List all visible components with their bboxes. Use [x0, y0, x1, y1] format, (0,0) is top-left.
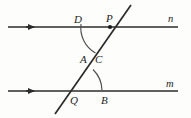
transversal-line	[55, 5, 131, 114]
geometry-figure: n m D P A C Q B	[0, 0, 191, 118]
label-line-n: n	[168, 14, 173, 25]
point-marker-p	[108, 25, 112, 29]
label-line-m: m	[166, 79, 174, 90]
label-point-p: P	[106, 13, 113, 24]
label-point-c: C	[95, 54, 102, 65]
label-point-a: A	[80, 54, 87, 65]
label-point-d: D	[74, 14, 82, 25]
angle-arc-at-q	[93, 70, 102, 91]
label-point-b: B	[101, 95, 108, 106]
label-point-q: Q	[70, 95, 78, 106]
angle-arc-at-p	[81, 24, 96, 53]
